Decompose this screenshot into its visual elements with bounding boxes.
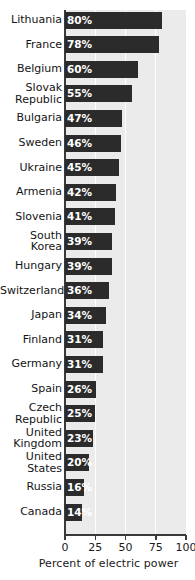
bar-row: Switzerland36% xyxy=(0,282,195,299)
bar-value-label: 14% xyxy=(67,504,92,521)
bar-row: Czech Republic25% xyxy=(0,405,195,422)
bar-value-label: 78% xyxy=(67,36,92,53)
bar: 25% xyxy=(65,405,95,422)
category-label: Japan xyxy=(0,309,62,321)
bar-row: Belgium60% xyxy=(0,61,195,78)
category-label: Hungary xyxy=(0,260,62,272)
bar-value-label: 42% xyxy=(67,184,92,201)
bar-chart: Lithuania80%France78%Belgium60%Slovak Re… xyxy=(0,0,195,580)
x-tick xyxy=(185,535,187,540)
bar: 42% xyxy=(65,184,116,201)
bar: 16% xyxy=(65,479,84,496)
category-label: United States xyxy=(0,451,62,474)
bar-row: Ukraine45% xyxy=(0,159,195,176)
bar-row: Lithuania80% xyxy=(0,12,195,29)
bar-value-label: 47% xyxy=(67,110,92,127)
bar: 45% xyxy=(65,159,119,176)
bar: 78% xyxy=(65,36,159,53)
x-axis-title: Percent of electric power xyxy=(0,557,195,570)
bar-row: Hungary39% xyxy=(0,258,195,275)
x-tick xyxy=(155,535,157,540)
x-axis-title-text: Percent of electric power xyxy=(39,557,179,570)
bar-value-label: 41% xyxy=(67,208,92,225)
bar: 31% xyxy=(65,331,103,348)
bar-row: Spain26% xyxy=(0,381,195,398)
bar-row: Canada14% xyxy=(0,504,195,521)
bar-row: Slovak Republic55% xyxy=(0,85,195,102)
bar: 39% xyxy=(65,233,112,250)
bar-row: South Korea39% xyxy=(0,233,195,250)
bar-value-label: 31% xyxy=(67,356,92,373)
bar: 46% xyxy=(65,135,121,152)
bar-row: Slovenia41% xyxy=(0,208,195,225)
bar-row: United States20% xyxy=(0,454,195,471)
category-label: Switzerland xyxy=(0,285,62,297)
bar: 55% xyxy=(65,85,132,102)
bar: 26% xyxy=(65,381,96,398)
category-label: France xyxy=(0,39,62,51)
bar-value-label: 55% xyxy=(67,85,92,102)
bar-value-label: 80% xyxy=(67,12,92,29)
bar-row: Russia16% xyxy=(0,479,195,496)
bar: 60% xyxy=(65,61,138,78)
x-tick-label: 100 xyxy=(166,541,195,554)
category-label: Slovenia xyxy=(0,211,62,223)
bar-value-label: 60% xyxy=(67,61,92,78)
bar-value-label: 39% xyxy=(67,233,92,250)
bar-row: Bulgaria47% xyxy=(0,110,195,127)
bar: 41% xyxy=(65,208,115,225)
category-label: Ukraine xyxy=(0,162,62,174)
bar: 31% xyxy=(65,356,103,373)
category-label: Spain xyxy=(0,383,62,395)
bar-value-label: 20% xyxy=(67,454,92,471)
bar-value-label: 45% xyxy=(67,159,92,176)
bar: 80% xyxy=(65,12,162,29)
bar-value-label: 34% xyxy=(67,307,92,324)
bar-value-label: 26% xyxy=(67,381,92,398)
bar-value-label: 46% xyxy=(67,135,92,152)
bar-row: Japan34% xyxy=(0,307,195,324)
category-label: Finland xyxy=(0,334,62,346)
category-label: Armenia xyxy=(0,186,62,198)
bar: 34% xyxy=(65,307,106,324)
bar-value-label: 16% xyxy=(67,479,92,496)
bar-row: Sweden46% xyxy=(0,135,195,152)
bar: 23% xyxy=(65,430,93,447)
category-label: Czech Republic xyxy=(0,402,62,425)
bar-value-label: 36% xyxy=(67,282,92,299)
x-tick xyxy=(95,535,97,540)
category-label: Canada xyxy=(0,506,62,518)
bar-row: Armenia42% xyxy=(0,184,195,201)
x-tick xyxy=(125,535,127,540)
bar: 47% xyxy=(65,110,122,127)
bar-value-label: 23% xyxy=(67,430,92,447)
bar-value-label: 31% xyxy=(67,331,92,348)
category-label: Belgium xyxy=(0,63,62,75)
category-label: Slovak Republic xyxy=(0,82,62,105)
x-tick xyxy=(64,535,66,540)
category-label: Sweden xyxy=(0,137,62,149)
category-label: South Korea xyxy=(0,230,62,253)
bar: 14% xyxy=(65,504,82,521)
category-label: Russia xyxy=(0,481,62,493)
bar-row: France78% xyxy=(0,36,195,53)
bar-row: United Kingdom23% xyxy=(0,430,195,447)
bar-value-label: 25% xyxy=(67,405,92,422)
bar-row: Germany31% xyxy=(0,356,195,373)
bar-row: Finland31% xyxy=(0,331,195,348)
bar: 36% xyxy=(65,282,109,299)
category-label: United Kingdom xyxy=(0,427,62,450)
category-label: Lithuania xyxy=(0,14,62,26)
category-label: Bulgaria xyxy=(0,112,62,124)
bar-value-label: 39% xyxy=(67,258,92,275)
bar: 20% xyxy=(65,454,89,471)
bar: 39% xyxy=(65,258,112,275)
category-label: Germany xyxy=(0,358,62,370)
